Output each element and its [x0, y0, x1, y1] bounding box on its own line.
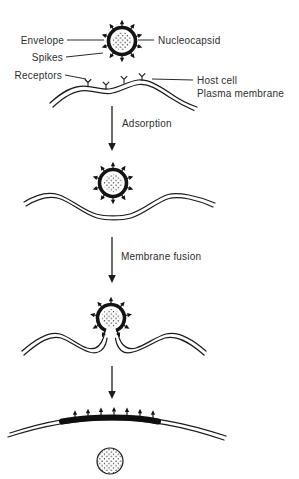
- spike-icon: [112, 407, 116, 415]
- membrane-dip-inner-line: [26, 197, 213, 220]
- released-nucleocapsid: [97, 448, 123, 474]
- adsorption-arrowhead-icon: [108, 143, 116, 151]
- nucleocapsid-core: [102, 309, 121, 328]
- fused-envelope-band: [62, 418, 158, 422]
- spike-icon: [138, 409, 142, 417]
- spike-icon: [125, 408, 129, 416]
- panel-released-nucleocapsid: [8, 407, 226, 474]
- receptors-leader-line: [65, 75, 86, 79]
- adsorption-step: Adsorption: [108, 106, 172, 151]
- nucleocapsid-core: [104, 174, 123, 193]
- plasma-membrane-label: Plasma membrane: [197, 88, 284, 99]
- release-arrowhead-icon: [108, 391, 116, 399]
- spike-icon: [99, 408, 103, 416]
- receptors-label: Receptors: [15, 70, 62, 81]
- spike-icon: [151, 410, 155, 418]
- envelope-label: Envelope: [21, 35, 65, 46]
- fused-membrane-inner-line: [8, 420, 224, 441]
- host-cell-leader-line: [152, 79, 193, 80]
- membrane-fusion-label: Membrane fusion: [121, 251, 201, 262]
- receptor-icon: [103, 82, 109, 89]
- membrane-fusion-outer-left-line: [22, 332, 105, 351]
- virus-particle: [101, 20, 143, 63]
- membrane-fusion-outer-right-line: [118, 332, 206, 351]
- membrane-fusion-step: Membrane fusion: [108, 237, 201, 283]
- release-step: [108, 366, 116, 399]
- plasma-membrane-inner-line: [53, 84, 194, 110]
- receptor-icon: [121, 76, 127, 83]
- nucleocapsid-core: [113, 32, 132, 51]
- virus-particle: [92, 162, 134, 205]
- host-cell-label: Host cell: [197, 75, 237, 86]
- virus-particle: [90, 297, 133, 339]
- spikes-label: Spikes: [32, 52, 63, 63]
- panel-adsorbed-virion: [24, 162, 215, 220]
- panel-free-virion: Envelope Spikes Nucleocapsid Receptors H…: [15, 20, 285, 111]
- diagram-canvas: Envelope Spikes Nucleocapsid Receptors H…: [0, 0, 299, 479]
- spikes-leader-line: [66, 53, 103, 57]
- panel-fusing-virion: [22, 297, 206, 355]
- virus-entry-diagram: Envelope Spikes Nucleocapsid Receptors H…: [0, 0, 299, 479]
- receptor-icon: [85, 80, 91, 87]
- adsorption-label: Adsorption: [122, 118, 172, 129]
- nucleocapsid-label: Nucleocapsid: [158, 35, 220, 46]
- membrane-fusion-arrowhead-icon: [108, 275, 116, 283]
